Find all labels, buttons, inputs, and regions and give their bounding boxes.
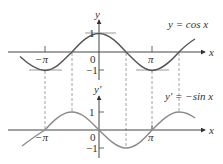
top-x-axis-label: x — [208, 46, 214, 58]
top-y-tick-neg-one: −1 — [86, 64, 98, 76]
top-x-tick-neg-pi: −π — [35, 53, 48, 65]
bottom-plot: y′ x 1 −1 0 −π π y′ = −sin x — [8, 83, 214, 158]
bottom-y-tick-neg-one: −1 — [86, 142, 98, 154]
bottom-x-tick-neg-pi: −π — [35, 131, 48, 143]
bottom-x-axis-label: x — [208, 124, 214, 136]
top-origin-label: 0 — [90, 53, 96, 65]
top-plot: y x 1 −1 0 −π π y = cos x — [8, 8, 214, 80]
derivative-diagram: y x 1 −1 0 −π π y = cos x y′ x 1 −1 0 −π… — [0, 0, 223, 164]
bottom-x-tick-pi: π — [148, 131, 154, 143]
bottom-y-tick-one: 1 — [89, 106, 95, 118]
cos-function-label: y = cos x — [167, 18, 208, 30]
top-y-axis-label: y — [94, 8, 100, 20]
bottom-y-axis-label: y′ — [93, 83, 102, 95]
bottom-origin-label: 0 — [90, 131, 96, 143]
neg-sin-function-label: y′ = −sin x — [164, 90, 213, 102]
dashed-guides — [45, 53, 179, 148]
top-x-tick-pi: π — [148, 53, 154, 65]
top-y-tick-one: 1 — [89, 27, 95, 39]
